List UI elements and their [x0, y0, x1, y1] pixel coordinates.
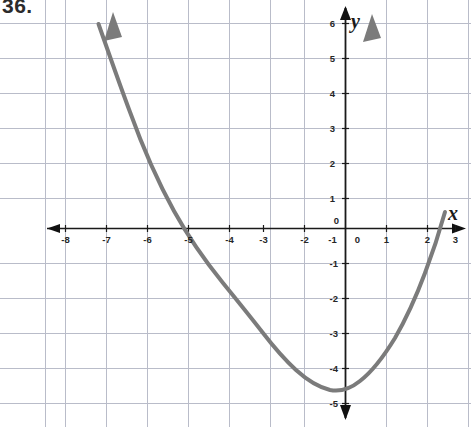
worksheet-graph-page: 36. [0, 0, 471, 427]
y-tick-label: -2 [330, 293, 338, 304]
x-tick-label: -7 [102, 234, 110, 245]
y-axis-label: y [349, 10, 360, 33]
x-tick-label: -8 [61, 234, 69, 245]
y-tick-label: 4 [330, 88, 336, 99]
x-axis-label: x [447, 202, 458, 224]
x-axis [47, 224, 466, 234]
y-axis-bottom-arrow [340, 405, 351, 420]
x-axis-tick-labels: -8 -7 -6 -5 -4 -3 -2 -1 1 2 3 0 [61, 234, 458, 245]
y-tick-label: -3 [330, 328, 338, 339]
x-origin-label: 0 [355, 234, 360, 245]
x-tick-label: -3 [259, 234, 267, 245]
x-tick-label: -1 [328, 234, 337, 245]
x-tick-label: -2 [300, 234, 308, 245]
y-axis-top-arrow [340, 6, 351, 20]
x-axis-right-arrow [452, 224, 466, 234]
parabola-right-arrowhead [363, 14, 381, 42]
y-tick-label: 2 [330, 158, 335, 169]
x-tick-label: 2 [425, 234, 430, 245]
coordinate-graph: -8 -7 -6 -5 -4 -3 -2 -1 1 2 3 0 6 5 4 3 … [0, 0, 471, 427]
x-tick-label: 3 [453, 234, 458, 245]
y-tick-label: -4 [330, 363, 339, 374]
y-tick-label: -1 [330, 258, 339, 269]
x-tick-label: -4 [225, 234, 234, 245]
y-origin-label: 0 [334, 215, 339, 226]
x-tick-label: -5 [184, 234, 193, 245]
grid-lines-vertical [46, 0, 469, 427]
y-axis-tick-labels: 6 5 4 3 2 1 -1 -2 -3 -4 -5 0 [330, 18, 339, 409]
grid-lines-horizontal [0, 24, 471, 404]
y-tick-label: 3 [330, 123, 335, 134]
x-axis-left-arrow [47, 224, 60, 233]
x-tick-label: 1 [384, 234, 390, 245]
x-tick-label: -6 [143, 234, 151, 245]
y-tick-label: 1 [330, 193, 336, 204]
y-tick-label: -5 [330, 398, 339, 409]
y-tick-label: 5 [330, 53, 336, 64]
y-tick-label: 6 [330, 18, 335, 29]
y-axis [340, 6, 351, 420]
